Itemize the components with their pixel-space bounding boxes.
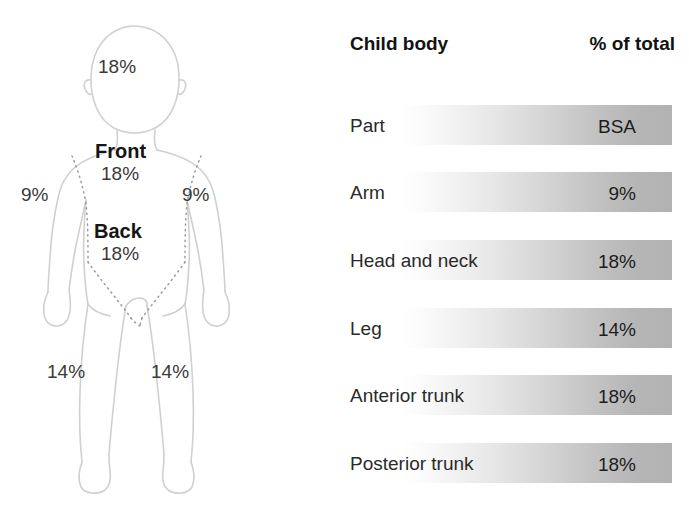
diagram-label-leg-left: 14% — [47, 362, 85, 381]
table-row: Head and neck18% — [330, 240, 689, 280]
table-row: Posterior trunk18% — [330, 443, 689, 483]
row-part-label: Part — [350, 115, 385, 137]
row-part-label: Anterior trunk — [350, 385, 464, 407]
row-bsa-value: 14% — [530, 319, 636, 341]
diagram-label-back-title: Back — [94, 221, 142, 241]
row-bsa-value: BSA — [530, 116, 636, 138]
row-part-label: Head and neck — [350, 250, 478, 272]
diagram-label-front-title: Front — [95, 141, 146, 161]
row-bsa-value: 18% — [530, 454, 636, 476]
table-row: Arm9% — [330, 172, 689, 212]
diagram-label-arm-right: 9% — [182, 185, 209, 204]
row-bsa-value: 9% — [530, 183, 636, 205]
row-bsa-value: 18% — [530, 386, 636, 408]
diagram-label-leg-right: 14% — [151, 362, 189, 381]
diagram-label-arm-left: 9% — [21, 185, 48, 204]
diagram-label-head: 18% — [98, 57, 136, 76]
row-part-label: Posterior trunk — [350, 453, 474, 475]
bsa-table-panel: Child body % of total PartBSAArm9%Head a… — [330, 0, 689, 517]
table-row: Anterior trunk18% — [330, 375, 689, 415]
table-rows: PartBSAArm9%Head and neck18%Leg14%Anteri… — [330, 0, 689, 517]
row-part-label: Leg — [350, 318, 382, 340]
row-part-label: Arm — [350, 182, 385, 204]
table-row: Leg14% — [330, 308, 689, 348]
diagram-label-back-value: 18% — [101, 244, 139, 263]
body-diagram-panel: 18% Front 18% Back 18% 9% 9% 14% 14% — [0, 0, 330, 517]
table-row: PartBSA — [330, 105, 689, 145]
row-bsa-value: 18% — [530, 251, 636, 273]
child-body-outline-icon — [0, 0, 330, 517]
diagram-label-front-value: 18% — [101, 164, 139, 183]
